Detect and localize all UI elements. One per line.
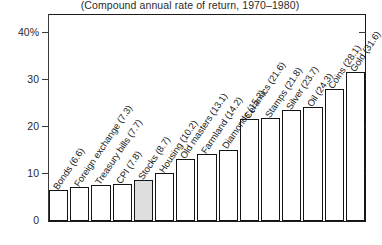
bar-stocks: [134, 180, 153, 221]
bar-old-masters: [176, 159, 195, 221]
bar-oil: [303, 107, 322, 221]
y-axis-label-20: 20: [0, 120, 39, 132]
bar-stamps: [261, 118, 280, 221]
y-axis-label-0: 0: [0, 214, 39, 226]
x-axis-line: [48, 221, 366, 222]
bar-foreign-exchange: [70, 187, 89, 221]
chart-title: (Compound annual rate of return, 1970–19…: [0, 0, 380, 11]
bar-silver: [282, 110, 301, 221]
bar-farmland: [197, 154, 216, 221]
bar-treasury-bills: [91, 185, 110, 221]
y-axis-label-30: 30: [0, 73, 39, 85]
bar-diamonds: [219, 150, 238, 222]
bar-cpi: [113, 184, 132, 221]
bar-bonds: [49, 190, 68, 221]
bar-gold: [346, 72, 365, 221]
bar-coins: [325, 89, 344, 221]
bar-housing: [155, 173, 174, 221]
y-axis-label-40%: 40%: [0, 26, 39, 38]
y-axis-label-10: 10: [0, 167, 39, 179]
bar-ceramics: [240, 119, 259, 221]
